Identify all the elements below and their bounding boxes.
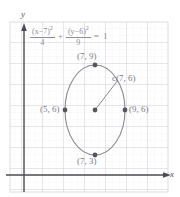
point-marker-center (93, 108, 98, 113)
point-marker-left-vertex (63, 108, 68, 113)
ellipse-figure: (x−7)2 4 + (y−6)2 9 = 1 (7, 9) c(7, 6) (… (0, 0, 180, 197)
point-marker-top-vertex (93, 63, 98, 68)
figure-canvas (0, 0, 180, 197)
point-marker-bottom-vertex (93, 153, 98, 158)
point-marker-right-vertex (123, 108, 128, 113)
major-gridlines (10, 22, 168, 192)
grid-layer (10, 22, 168, 192)
